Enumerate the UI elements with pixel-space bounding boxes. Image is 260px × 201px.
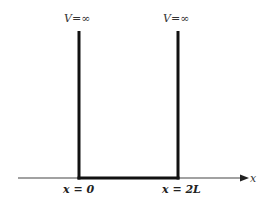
well	[78, 31, 180, 180]
left-position-label: x = 0	[62, 183, 94, 196]
right-wall-label: V=∞	[163, 12, 189, 25]
left-wall-label: V=∞	[64, 12, 90, 25]
right-position-label: x = 2L	[161, 183, 201, 196]
axis-arrow-icon	[240, 175, 249, 182]
infinite-well-diagram: V=∞ V=∞ x x = 0 x = 2L	[0, 0, 260, 201]
axis-label: x	[250, 172, 257, 185]
